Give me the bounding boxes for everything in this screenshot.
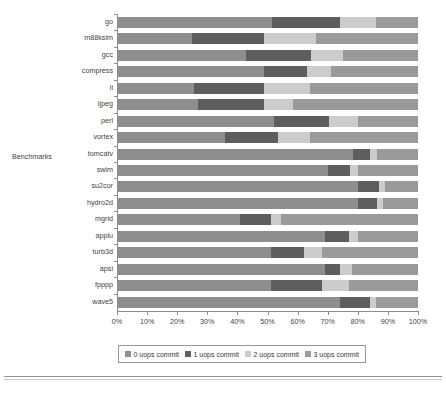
x-axis-label-40%: 40% — [230, 317, 244, 326]
bar-segment — [246, 50, 311, 61]
bar-segment — [264, 83, 309, 94]
x-axis-label-50%: 50% — [260, 317, 274, 326]
stacked-bar[interactable] — [117, 214, 418, 225]
bar-segment — [322, 280, 349, 291]
legend-item[interactable]: 2 uops commit — [245, 351, 299, 358]
bar-row — [117, 129, 418, 145]
bar-row — [117, 96, 418, 112]
bar-row — [117, 47, 418, 63]
bar-segment — [117, 297, 340, 308]
y-axis-tick-labels: gom88ksimgcccompressliijpegperlvortextom… — [0, 14, 113, 310]
bar-segment — [225, 132, 278, 143]
bar-row — [117, 113, 418, 129]
legend-label: 3 uops commit — [313, 351, 359, 358]
legend-item[interactable]: 0 uops commit — [125, 351, 179, 358]
stacked-bar[interactable] — [117, 33, 418, 44]
y-axis-line — [117, 14, 118, 311]
y-axis-label-mgrid: mgrid — [0, 211, 113, 227]
bar-segment — [117, 198, 358, 209]
bar-segment — [117, 264, 325, 275]
bar-row — [117, 80, 418, 96]
legend-item[interactable]: 1 uops commit — [185, 351, 239, 358]
y-axis-label-gcc: gcc — [0, 47, 113, 63]
legend-swatch-icon — [125, 351, 131, 357]
stacked-bar[interactable] — [117, 149, 418, 160]
bar-segment — [117, 165, 328, 176]
bar-row — [117, 228, 418, 244]
y-axis-label-fpppp: fpppp — [0, 277, 113, 293]
bar-segment — [385, 181, 418, 192]
stacked-bar[interactable] — [117, 165, 418, 176]
y-axis-label-vortex: vortex — [0, 129, 113, 145]
bar-segment — [358, 198, 378, 209]
y-axis-title: Benchmarks — [12, 152, 52, 161]
bar-segment — [329, 116, 358, 127]
x-axis-ticks: 0%10%20%30%40%50%60%70%80%90%100% — [117, 312, 419, 328]
bar-segment — [271, 280, 322, 291]
stacked-bar[interactable] — [117, 247, 418, 258]
bar-segment — [117, 149, 353, 160]
bar-row — [117, 211, 418, 227]
plot-area — [117, 14, 418, 310]
legend-label: 2 uops commit — [253, 351, 299, 358]
bar-segment — [117, 99, 198, 110]
stacked-bar[interactable] — [117, 99, 418, 110]
bar-segment — [383, 198, 418, 209]
stacked-bar[interactable] — [117, 66, 418, 77]
bar-segment — [311, 50, 343, 61]
bar-segment — [117, 214, 240, 225]
stacked-bar[interactable] — [117, 231, 418, 242]
stacked-bar[interactable] — [117, 116, 418, 127]
x-axis-tick — [177, 312, 178, 315]
y-axis-label-compress: compress — [0, 63, 113, 79]
bar-segment — [353, 149, 370, 160]
bar-segment — [340, 297, 370, 308]
bar-segment — [264, 33, 315, 44]
bar-segment — [117, 247, 271, 258]
bar-segment — [272, 17, 339, 28]
bar-segment — [322, 247, 418, 258]
y-axis-label-swim: swim — [0, 162, 113, 178]
x-axis-tick — [298, 312, 299, 315]
bar-row — [117, 195, 418, 211]
stacked-bar[interactable] — [117, 280, 418, 291]
chart-legend: 0 uops commit1 uops commit2 uops commit3… — [118, 345, 366, 363]
legend-label: 1 uops commit — [193, 351, 239, 358]
bar-row — [117, 63, 418, 79]
x-axis-tick — [388, 312, 389, 315]
bar-segment — [370, 149, 378, 160]
bar-segment — [293, 99, 418, 110]
y-axis-label-go: go — [0, 14, 113, 30]
stacked-bar[interactable] — [117, 132, 418, 143]
stacked-bar[interactable] — [117, 264, 418, 275]
bar-row — [117, 146, 418, 162]
bar-segment — [117, 66, 264, 77]
y-axis-label-li: li — [0, 80, 113, 96]
x-axis-label-100%: 100% — [409, 317, 427, 326]
bar-segment — [358, 116, 418, 127]
bar-segment — [271, 247, 304, 258]
bar-segment — [117, 83, 194, 94]
x-axis-label-30%: 30% — [200, 317, 214, 326]
stacked-bar[interactable] — [117, 297, 418, 308]
y-axis-label-m88ksim: m88ksim — [0, 30, 113, 46]
bar-segment — [271, 214, 282, 225]
bar-segment — [358, 181, 379, 192]
stacked-bar[interactable] — [117, 50, 418, 61]
legend-item[interactable]: 3 uops commit — [305, 351, 359, 358]
bar-row — [117, 261, 418, 277]
bar-segment — [307, 66, 331, 77]
bar-segment — [264, 99, 293, 110]
stacked-bar[interactable] — [117, 17, 418, 28]
x-axis-tick — [268, 312, 269, 315]
stacked-bar[interactable] — [117, 181, 418, 192]
bar-segment — [358, 165, 418, 176]
bar-segment — [117, 17, 272, 28]
legend-swatch-icon — [305, 351, 311, 357]
stacked-bar[interactable] — [117, 198, 418, 209]
bar-segment — [198, 99, 264, 110]
bar-row — [117, 178, 418, 194]
bar-segment — [358, 231, 418, 242]
bar-segment — [304, 247, 322, 258]
stacked-bar[interactable] — [117, 83, 418, 94]
